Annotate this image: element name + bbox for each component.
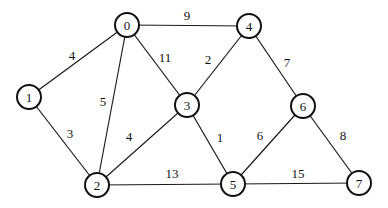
node-label: 4 [246, 19, 253, 34]
nodes-layer: 01234567 [17, 13, 371, 197]
edge-weight-0-3: 11 [159, 50, 172, 65]
edge-weight-3-5: 1 [217, 130, 224, 145]
edge-weight-3-4: 2 [205, 52, 212, 67]
node-label: 6 [300, 99, 307, 114]
node-5: 5 [221, 172, 245, 196]
node-6: 6 [291, 94, 315, 118]
node-0: 0 [115, 13, 139, 37]
node-label: 0 [124, 18, 131, 33]
edge-1-2 [29, 97, 97, 185]
node-label: 7 [356, 176, 363, 191]
node-4: 4 [237, 14, 261, 38]
edge-2-5 [97, 184, 233, 185]
weighted-graph-diagram: 4511934132176158 01234567 [0, 0, 388, 208]
edge-3-5 [187, 105, 233, 184]
node-7: 7 [347, 171, 371, 195]
node-label: 1 [26, 90, 33, 105]
edge-weight-0-4: 9 [184, 8, 191, 23]
edge-6-7 [303, 106, 359, 183]
edge-weight-5-7: 15 [292, 166, 305, 181]
node-3: 3 [175, 93, 199, 117]
edge-weight-2-3: 4 [126, 129, 133, 144]
edge-weight-2-5: 13 [166, 166, 179, 181]
node-label: 3 [184, 98, 191, 113]
node-label: 5 [230, 177, 237, 192]
edge-weight-0-1: 4 [69, 48, 76, 63]
edge-0-3 [127, 25, 187, 105]
edge-5-7 [233, 183, 359, 184]
edge-weight-4-6: 7 [284, 55, 291, 70]
edge-weight-1-2: 3 [67, 126, 74, 141]
edge-4-6 [249, 26, 303, 106]
edge-3-4 [187, 26, 249, 105]
node-2: 2 [85, 173, 109, 197]
edge-weight-6-7: 8 [340, 128, 347, 143]
edge-0-4 [127, 25, 249, 26]
edge-weight-0-2: 5 [100, 94, 107, 109]
node-1: 1 [17, 85, 41, 109]
edge-weight-5-6: 6 [257, 128, 264, 143]
node-label: 2 [94, 178, 101, 193]
edge-0-1 [29, 25, 127, 97]
